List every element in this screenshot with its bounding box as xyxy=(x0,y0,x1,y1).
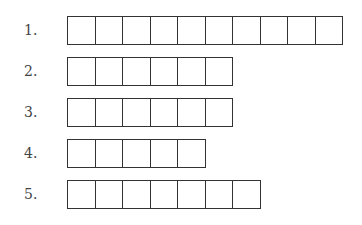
box-cell xyxy=(261,16,289,45)
box-cell xyxy=(123,98,151,127)
box-cell xyxy=(123,16,151,45)
box-cell xyxy=(178,57,206,86)
box-cell xyxy=(68,16,96,45)
box-cell xyxy=(151,57,179,86)
row-label: 5. xyxy=(24,186,37,202)
box-cell xyxy=(123,180,151,209)
row-label: 4. xyxy=(24,145,37,161)
cell-strip xyxy=(67,57,233,86)
row-label: 2. xyxy=(24,63,37,79)
box-cell xyxy=(178,98,206,127)
box-cell xyxy=(68,98,96,127)
box-cell xyxy=(68,139,96,168)
box-cell xyxy=(68,180,96,209)
box-cell xyxy=(151,180,179,209)
box-cell xyxy=(206,98,234,127)
box-cell xyxy=(233,180,261,209)
box-cell xyxy=(206,57,234,86)
box-row: 5. xyxy=(0,180,362,210)
box-cell xyxy=(178,139,206,168)
cell-strip xyxy=(67,139,206,168)
box-cell xyxy=(206,180,234,209)
box-cell xyxy=(288,16,316,45)
box-cell xyxy=(123,57,151,86)
box-cell xyxy=(96,98,124,127)
box-cell xyxy=(206,16,234,45)
box-cell xyxy=(96,180,124,209)
box-cell xyxy=(96,57,124,86)
box-cell xyxy=(123,139,151,168)
cell-strip xyxy=(67,98,233,127)
box-row: 3. xyxy=(0,98,362,128)
cell-strip xyxy=(67,180,261,209)
box-cell xyxy=(316,16,344,45)
box-row: 4. xyxy=(0,139,362,169)
box-cell xyxy=(178,180,206,209)
box-row: 2. xyxy=(0,57,362,87)
box-cell xyxy=(233,16,261,45)
box-cell xyxy=(68,57,96,86)
box-cell xyxy=(96,16,124,45)
box-cell xyxy=(151,16,179,45)
box-row: 1. xyxy=(0,16,362,46)
box-cell xyxy=(151,98,179,127)
cell-strip xyxy=(67,16,343,45)
box-cell xyxy=(178,16,206,45)
box-cell xyxy=(96,139,124,168)
box-cell xyxy=(151,139,179,168)
row-label: 1. xyxy=(24,22,37,38)
row-label: 3. xyxy=(24,104,37,120)
